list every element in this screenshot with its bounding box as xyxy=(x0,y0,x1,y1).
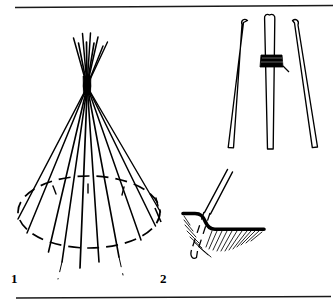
figure-1-pole xyxy=(27,88,87,233)
figure-2a-tripod-group xyxy=(228,14,317,149)
detail-pole-buried xyxy=(192,212,211,251)
tripod-lashing-tail xyxy=(283,66,289,72)
figure-1-pole-tails xyxy=(58,257,123,279)
figure-2b-detail-group xyxy=(183,170,264,259)
detail-pole-above-ground xyxy=(205,170,233,215)
tripod-pole-center xyxy=(265,14,275,149)
figure-1-poles xyxy=(18,88,161,268)
figure-1-ground-circle xyxy=(18,176,160,248)
figure-label-1: 1 xyxy=(11,272,18,285)
illustration-page: 1 2 xyxy=(0,0,333,308)
tripod-lashing xyxy=(260,55,283,67)
figure-canvas xyxy=(0,0,333,308)
tripod-pole-right xyxy=(293,20,318,148)
figure-1-pole xyxy=(18,88,87,219)
figure-label-2: 2 xyxy=(160,272,167,285)
figure-1-group xyxy=(18,33,161,279)
detail-pole-buried-tip xyxy=(191,250,198,258)
figure-1-pole xyxy=(88,88,156,226)
bottom-rule xyxy=(16,297,331,298)
tripod-pole-left xyxy=(228,19,247,147)
soil-hatching-right xyxy=(206,231,262,251)
top-rule xyxy=(15,6,333,8)
ground-surface-line xyxy=(183,214,264,230)
